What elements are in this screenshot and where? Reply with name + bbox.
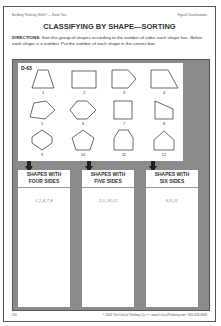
shape-8: 8: [144, 100, 184, 126]
pentagon-icon: [28, 100, 56, 120]
shape-12: 12: [144, 129, 184, 157]
shape-2: 2: [64, 69, 104, 95]
answer-field[interactable]: 3,5,10,12: [82, 198, 134, 203]
category-label: SHAPES WITH SIX SIDES: [146, 170, 198, 188]
pentagon-house-icon: [151, 129, 177, 151]
quadrilateral-icon: [151, 100, 177, 120]
right-trapezoid-icon: [148, 69, 180, 89]
hexagon-house-icon: [111, 129, 137, 151]
shape-10: 10: [63, 129, 103, 157]
header-section: Figural Classifications: [178, 13, 207, 17]
trapezoid-icon: [30, 69, 56, 89]
answer-field[interactable]: 6,9,11: [146, 198, 198, 203]
directions-label: DIRECTIONS:: [12, 35, 41, 40]
shape-1: 1: [23, 69, 63, 95]
footer-copyright: © 2006 The Critical Thinking Co.™ • www.…: [102, 313, 207, 317]
square-icon: [111, 100, 137, 120]
shape-3: 3: [104, 69, 144, 95]
shape-5: 5: [22, 100, 62, 126]
page-title: CLASSIFYING BY SHAPE—SORTING: [4, 22, 215, 31]
category-four-sides: SHAPES WITH FOUR SIDES 1,2,4,7,8: [18, 170, 70, 307]
shape-7: 7: [104, 100, 144, 126]
hexagon-tall-icon: [29, 129, 55, 151]
category-six-sides: SHAPES WITH SIX SIDES 6,9,11: [146, 170, 198, 307]
directions-text: Sort this group of shapes according to t…: [12, 35, 202, 46]
pentagon-regular-icon: [70, 129, 96, 151]
shape-11: 11: [104, 129, 144, 157]
directions: DIRECTIONS: Sort this group of shapes ac…: [12, 35, 207, 46]
category-five-sides: SHAPES WITH FIVE SIDES 3,5,10,12: [82, 170, 134, 307]
pentagon-arrow-icon: [111, 69, 137, 89]
answer-field[interactable]: 1,2,4,7,8: [18, 198, 70, 203]
shape-6: 6: [63, 100, 103, 126]
category-label: SHAPES WITH FOUR SIDES: [18, 170, 70, 188]
hexagon-icon: [69, 100, 97, 120]
shapes-area: D-63 1 2 3 4 5 6 7 8 9 10: [18, 63, 183, 161]
shape-9: 9: [22, 129, 62, 157]
header-book-title: Building Thinking Skills® — Book Two: [12, 13, 66, 17]
category-label: SHAPES WITH FIVE SIDES: [82, 170, 134, 188]
page-number: 110: [12, 313, 17, 317]
shape-4: 4: [144, 69, 184, 95]
rectangle-icon: [71, 69, 97, 89]
